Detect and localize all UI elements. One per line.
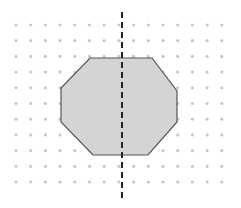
grid-dot xyxy=(220,133,223,136)
grid-dot xyxy=(147,39,150,42)
grid-dot xyxy=(44,39,47,42)
grid-dot xyxy=(73,39,76,42)
grid-dot xyxy=(132,39,135,42)
grid-dot xyxy=(206,23,209,26)
grid-dot xyxy=(14,86,17,89)
grid-dot xyxy=(14,133,17,136)
grid-dot xyxy=(14,39,17,42)
grid-dot xyxy=(73,180,76,183)
grid-dot xyxy=(14,55,17,58)
grid-dot xyxy=(14,149,17,152)
grid-dot xyxy=(176,149,179,152)
grid-dot xyxy=(59,149,62,152)
grid-dot xyxy=(176,133,179,136)
grid-dot xyxy=(44,102,47,105)
grid-dot xyxy=(206,165,209,168)
grid-dot xyxy=(14,180,17,183)
grid-dot xyxy=(132,23,135,26)
grid-dot xyxy=(191,165,194,168)
grid-dot xyxy=(44,118,47,121)
grid-dot xyxy=(206,39,209,42)
grid-dot xyxy=(206,55,209,58)
grid-dot xyxy=(29,86,32,89)
grid-dot xyxy=(220,71,223,74)
grid-dot xyxy=(206,102,209,105)
grid-dot xyxy=(29,180,32,183)
grid-dot xyxy=(176,165,179,168)
grid-dot xyxy=(29,149,32,152)
grid-dot xyxy=(161,55,164,58)
grid-dot xyxy=(176,23,179,26)
grid-dot xyxy=(191,180,194,183)
grid-dot xyxy=(44,23,47,26)
grid-dot xyxy=(44,149,47,152)
grid-dot xyxy=(206,118,209,121)
grid-dot xyxy=(206,180,209,183)
grid-dot xyxy=(176,55,179,58)
grid-dot xyxy=(176,180,179,183)
grid-dot xyxy=(191,149,194,152)
grid-dot xyxy=(44,55,47,58)
grid-dot xyxy=(29,165,32,168)
grid-dot xyxy=(161,39,164,42)
grid-dot xyxy=(117,39,120,42)
grid-dot xyxy=(59,39,62,42)
grid-dot xyxy=(88,165,91,168)
grid-dot xyxy=(44,133,47,136)
grid-dot xyxy=(44,180,47,183)
grid-dot xyxy=(103,23,106,26)
grid-dot xyxy=(191,86,194,89)
grid-dot xyxy=(176,86,179,89)
grid-dot xyxy=(14,102,17,105)
grid-dot xyxy=(14,23,17,26)
grid-dot xyxy=(73,55,76,58)
grid-dot xyxy=(73,165,76,168)
grid-dot xyxy=(88,39,91,42)
grid-dot xyxy=(191,118,194,121)
grid-dot xyxy=(161,180,164,183)
grid-dot xyxy=(29,55,32,58)
grid-dot xyxy=(59,165,62,168)
grid-dot xyxy=(220,86,223,89)
grid-dot xyxy=(161,23,164,26)
grid-dot xyxy=(191,55,194,58)
grid-dot xyxy=(44,71,47,74)
grid-dot xyxy=(132,165,135,168)
grid-dot xyxy=(220,149,223,152)
grid-dot xyxy=(220,39,223,42)
grid-dot xyxy=(117,23,120,26)
grid-dot xyxy=(191,23,194,26)
grid-dot xyxy=(73,149,76,152)
grid-dot xyxy=(206,149,209,152)
grid-dot xyxy=(59,71,62,74)
grid-dot xyxy=(220,165,223,168)
grid-dot xyxy=(161,149,164,152)
grid-dot xyxy=(191,102,194,105)
grid-dot xyxy=(191,71,194,74)
grid-dot xyxy=(191,39,194,42)
grid-dot xyxy=(14,118,17,121)
grid-dot xyxy=(44,86,47,89)
grid-dot xyxy=(29,133,32,136)
grid-dot xyxy=(132,180,135,183)
grid-dot xyxy=(59,133,62,136)
grid-dot xyxy=(29,23,32,26)
grid-dot xyxy=(117,165,120,168)
grid-dot xyxy=(59,180,62,183)
grid-dot xyxy=(220,55,223,58)
grid-dot xyxy=(147,165,150,168)
grid-dot xyxy=(206,133,209,136)
grid-dot xyxy=(147,180,150,183)
grid-dot xyxy=(29,71,32,74)
grid-dot xyxy=(161,165,164,168)
grid-dot xyxy=(29,102,32,105)
grid-dot xyxy=(14,165,17,168)
grid-dot xyxy=(220,118,223,121)
grid-dot xyxy=(206,71,209,74)
grid-dot xyxy=(206,86,209,89)
grid-dot xyxy=(29,39,32,42)
grid-dot xyxy=(59,55,62,58)
grid-dot xyxy=(176,39,179,42)
grid-dot xyxy=(73,23,76,26)
grid-dot xyxy=(220,180,223,183)
